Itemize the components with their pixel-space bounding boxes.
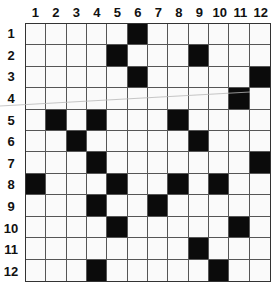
white-cell[interactable]	[209, 110, 229, 131]
white-cell[interactable]	[107, 195, 127, 216]
white-cell[interactable]	[87, 174, 107, 195]
white-cell[interactable]	[128, 195, 148, 216]
white-cell[interactable]	[168, 152, 188, 173]
white-cell[interactable]	[67, 238, 87, 259]
white-cell[interactable]	[128, 217, 148, 238]
white-cell[interactable]	[87, 24, 107, 45]
white-cell[interactable]	[148, 238, 168, 259]
white-cell[interactable]	[87, 131, 107, 152]
white-cell[interactable]	[229, 131, 249, 152]
white-cell[interactable]	[67, 45, 87, 66]
white-cell[interactable]	[168, 88, 188, 109]
white-cell[interactable]	[168, 67, 188, 88]
white-cell[interactable]	[67, 110, 87, 131]
white-cell[interactable]	[148, 24, 168, 45]
white-cell[interactable]	[189, 88, 209, 109]
white-cell[interactable]	[128, 238, 148, 259]
white-cell[interactable]	[26, 110, 46, 131]
white-cell[interactable]	[46, 152, 66, 173]
white-cell[interactable]	[26, 260, 46, 281]
white-cell[interactable]	[148, 131, 168, 152]
white-cell[interactable]	[189, 24, 209, 45]
white-cell[interactable]	[229, 174, 249, 195]
white-cell[interactable]	[26, 24, 46, 45]
white-cell[interactable]	[26, 238, 46, 259]
white-cell[interactable]	[189, 152, 209, 173]
white-cell[interactable]	[148, 260, 168, 281]
white-cell[interactable]	[128, 260, 148, 281]
white-cell[interactable]	[67, 195, 87, 216]
white-cell[interactable]	[189, 174, 209, 195]
white-cell[interactable]	[168, 195, 188, 216]
white-cell[interactable]	[189, 67, 209, 88]
white-cell[interactable]	[209, 131, 229, 152]
white-cell[interactable]	[209, 45, 229, 66]
white-cell[interactable]	[67, 24, 87, 45]
white-cell[interactable]	[250, 174, 270, 195]
white-cell[interactable]	[67, 260, 87, 281]
white-cell[interactable]	[107, 67, 127, 88]
white-cell[interactable]	[46, 260, 66, 281]
white-cell[interactable]	[168, 217, 188, 238]
white-cell[interactable]	[168, 238, 188, 259]
white-cell[interactable]	[107, 88, 127, 109]
white-cell[interactable]	[229, 195, 249, 216]
white-cell[interactable]	[229, 45, 249, 66]
white-cell[interactable]	[229, 238, 249, 259]
white-cell[interactable]	[168, 131, 188, 152]
white-cell[interactable]	[189, 195, 209, 216]
white-cell[interactable]	[250, 24, 270, 45]
white-cell[interactable]	[87, 45, 107, 66]
white-cell[interactable]	[128, 152, 148, 173]
white-cell[interactable]	[209, 67, 229, 88]
white-cell[interactable]	[229, 110, 249, 131]
white-cell[interactable]	[87, 67, 107, 88]
white-cell[interactable]	[148, 45, 168, 66]
white-cell[interactable]	[107, 238, 127, 259]
white-cell[interactable]	[67, 217, 87, 238]
white-cell[interactable]	[148, 174, 168, 195]
white-cell[interactable]	[209, 88, 229, 109]
white-cell[interactable]	[67, 152, 87, 173]
white-cell[interactable]	[26, 195, 46, 216]
white-cell[interactable]	[107, 260, 127, 281]
white-cell[interactable]	[46, 24, 66, 45]
white-cell[interactable]	[46, 88, 66, 109]
white-cell[interactable]	[46, 217, 66, 238]
white-cell[interactable]	[26, 45, 46, 66]
white-cell[interactable]	[148, 217, 168, 238]
white-cell[interactable]	[148, 110, 168, 131]
white-cell[interactable]	[148, 67, 168, 88]
white-cell[interactable]	[250, 195, 270, 216]
white-cell[interactable]	[46, 174, 66, 195]
white-cell[interactable]	[229, 152, 249, 173]
white-cell[interactable]	[250, 131, 270, 152]
white-cell[interactable]	[107, 24, 127, 45]
white-cell[interactable]	[168, 260, 188, 281]
white-cell[interactable]	[46, 195, 66, 216]
white-cell[interactable]	[67, 88, 87, 109]
white-cell[interactable]	[87, 88, 107, 109]
white-cell[interactable]	[189, 260, 209, 281]
white-cell[interactable]	[128, 174, 148, 195]
white-cell[interactable]	[168, 24, 188, 45]
white-cell[interactable]	[26, 88, 46, 109]
white-cell[interactable]	[250, 238, 270, 259]
white-cell[interactable]	[26, 67, 46, 88]
white-cell[interactable]	[46, 131, 66, 152]
white-cell[interactable]	[250, 45, 270, 66]
white-cell[interactable]	[128, 110, 148, 131]
white-cell[interactable]	[250, 88, 270, 109]
white-cell[interactable]	[209, 195, 229, 216]
white-cell[interactable]	[128, 45, 148, 66]
white-cell[interactable]	[189, 110, 209, 131]
white-cell[interactable]	[128, 88, 148, 109]
white-cell[interactable]	[46, 67, 66, 88]
white-cell[interactable]	[168, 45, 188, 66]
white-cell[interactable]	[107, 131, 127, 152]
white-cell[interactable]	[128, 131, 148, 152]
white-cell[interactable]	[148, 88, 168, 109]
white-cell[interactable]	[87, 217, 107, 238]
white-cell[interactable]	[46, 45, 66, 66]
white-cell[interactable]	[229, 67, 249, 88]
